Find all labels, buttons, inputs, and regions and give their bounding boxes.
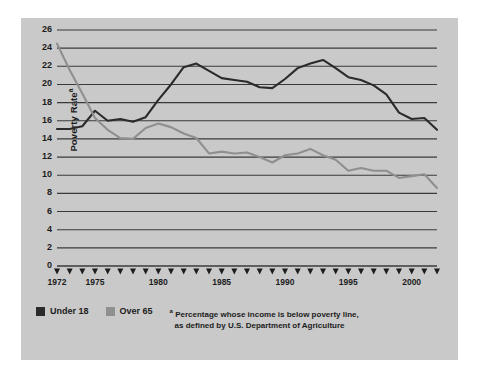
x-axis-tick-marker: [117, 269, 123, 275]
x-axis-tick-marker: [143, 269, 149, 275]
x-axis-tick-marker: [269, 269, 275, 275]
x-axis-tick-marker: [358, 269, 364, 275]
x-axis-tick-label: 1985: [202, 277, 242, 287]
y-axis-tick-label: 26: [26, 24, 52, 34]
x-axis-tick-marker: [168, 269, 174, 275]
x-axis-tick-marker: [434, 269, 440, 275]
x-axis-tick-marker: [193, 269, 199, 275]
x-axis-tick-marker: [244, 269, 250, 275]
x-axis-tick-marker: [282, 269, 288, 275]
chart-footnote: a Percentage whose income is below pover…: [170, 306, 359, 331]
y-axis-tick-label: 10: [26, 169, 52, 179]
x-axis-tick-marker: [206, 269, 212, 275]
x-axis-tick-label: 1972: [37, 277, 77, 287]
x-axis-tick-marker: [181, 269, 187, 275]
x-axis-tick-marks: [54, 269, 440, 275]
x-axis-tick-marker: [130, 269, 136, 275]
y-axis-tick-label: 2: [26, 242, 52, 252]
y-axis-tick-label: 0: [26, 260, 52, 270]
x-axis-tick-marker: [333, 269, 339, 275]
series-lines: [57, 44, 437, 188]
legend-swatch-over-65-icon: [106, 307, 115, 316]
x-axis-tick-label: 1995: [328, 277, 368, 287]
chart-legend: Under 18 Over 65 a Percentage whose inco…: [36, 306, 359, 331]
x-axis-tick-marker: [54, 269, 60, 275]
footnote-line-2: as defined by U.S. Department of Agricul…: [175, 321, 345, 330]
y-axis-tick-label: 24: [26, 42, 52, 52]
x-axis-tick-label: 1975: [75, 277, 115, 287]
series-line-under-18: [57, 60, 437, 130]
y-axis-tick-label: 4: [26, 224, 52, 234]
x-axis-tick-marker: [155, 269, 161, 275]
x-axis-tick-marker: [409, 269, 415, 275]
y-axis-tick-label: 16: [26, 115, 52, 125]
x-axis-tick-marker: [345, 269, 351, 275]
y-axis-tick-label: 12: [26, 151, 52, 161]
x-axis-tick-marker: [396, 269, 402, 275]
y-axis-tick-label: 18: [26, 97, 52, 107]
legend-swatch-under-18-icon: [36, 307, 45, 316]
legend-label-over-65: Over 65: [120, 306, 153, 316]
x-axis-tick-marker: [219, 269, 225, 275]
x-axis-tick-marker: [257, 269, 263, 275]
x-axis-tick-marker: [320, 269, 326, 275]
x-axis-tick-marker: [421, 269, 427, 275]
series-line-over-65: [57, 44, 437, 188]
x-axis-tick-label: 1990: [265, 277, 305, 287]
x-axis-tick-label: 2000: [392, 277, 432, 287]
legend-item-under-18: Under 18: [36, 306, 89, 316]
x-axis-tick-marker: [79, 269, 85, 275]
y-axis-tick-label: 6: [26, 206, 52, 216]
x-axis-tick-marker: [105, 269, 111, 275]
y-axis-tick-label: 22: [26, 60, 52, 70]
x-axis-tick-marker: [383, 269, 389, 275]
x-axis-tick-marker: [295, 269, 301, 275]
x-axis-tick-marker: [371, 269, 377, 275]
x-axis-tick-marker: [307, 269, 313, 275]
y-axis-tick-label: 20: [26, 78, 52, 88]
gridlines: [57, 30, 437, 266]
y-axis-tick-label: 14: [26, 133, 52, 143]
legend-label-under-18: Under 18: [50, 306, 89, 316]
legend-item-over-65: Over 65: [106, 306, 153, 316]
x-axis-tick-marker: [67, 269, 73, 275]
x-axis-tick-label: 1980: [138, 277, 178, 287]
x-axis-tick-marker: [231, 269, 237, 275]
y-axis-tick-label: 8: [26, 187, 52, 197]
x-axis-tick-marker: [92, 269, 98, 275]
footnote-marker: a: [170, 308, 173, 314]
footnote-line-1: Percentage whose income is below poverty…: [175, 310, 359, 319]
chart-figure: Poverty Ratea 02468101214161820222426 19…: [21, 18, 458, 360]
